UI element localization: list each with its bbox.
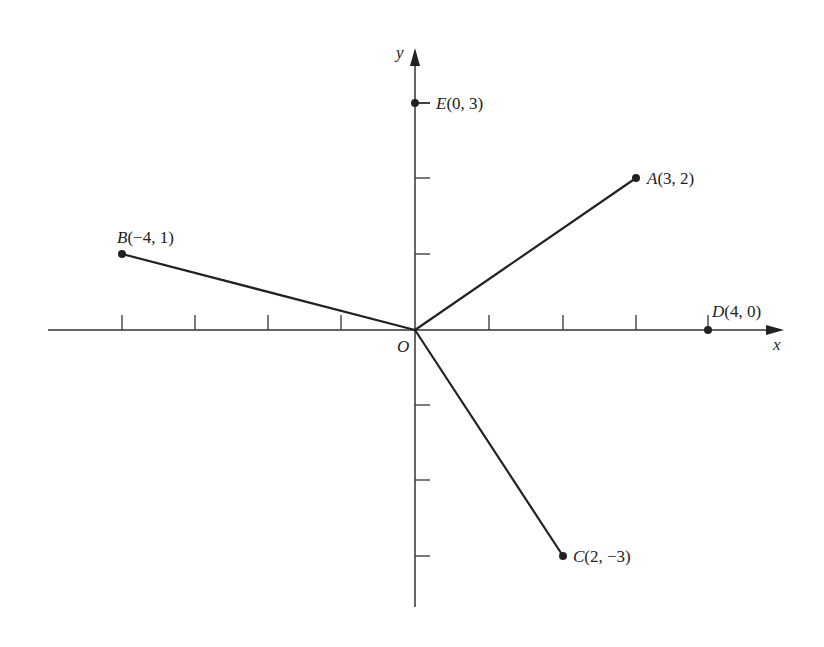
point-C-label: C(2, −3) [573,547,631,566]
point-A [632,174,640,182]
x-axis-label: x [772,335,781,354]
point-A-label: A(3, 2) [646,169,694,188]
point-E-label: E(0, 3) [435,94,483,113]
point-D-label: D(4, 0) [711,302,761,321]
x-axis-arrow-icon [766,325,784,335]
coordinate-plane: y x O E(0, 3) A(3, 2) B(−4, 1) D(4, 0) C… [0,0,824,647]
segment-OC [415,330,563,556]
point-D [704,326,712,334]
segments [122,178,636,556]
point-C [559,552,567,560]
point-B-label: B(−4, 1) [117,228,174,247]
origin-label: O [397,337,409,356]
y-axis-arrow-icon [410,48,420,66]
y-axis-label: y [394,43,404,62]
point-B [118,250,126,258]
point-E [411,99,419,107]
segment-OA [415,178,636,330]
